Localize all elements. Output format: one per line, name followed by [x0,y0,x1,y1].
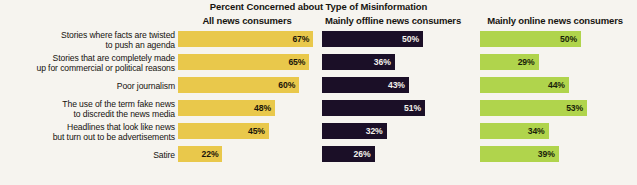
bar-online: 39% [480,146,559,162]
chart-row: Stories that are completely made up for … [0,51,637,74]
bar-track-offline: 50% [322,31,423,47]
category-label-line2: to discredit the news media [3,109,175,119]
bar-track-online: 44% [480,77,569,93]
bar-track-all: 22% [178,146,222,162]
category-label-line1: Stories where facts are twisted [61,29,175,39]
bar-track-offline: 32% [322,123,387,139]
bar-all: 22% [178,146,222,162]
bar-online: 29% [480,54,539,70]
chart-row: Stories where facts are twisted to push … [0,28,637,51]
bar-track-all: 48% [178,100,275,116]
category-label: Headlines that look like news but turn o… [3,121,175,141]
bar-offline: 32% [322,123,387,139]
bar-track-all: 65% [178,54,309,70]
bar-offline: 43% [322,77,409,93]
chart-row: Poor journalism 60% 43% 44% [0,74,637,97]
bar-track-online: 34% [480,123,549,139]
bar-online: 34% [480,123,549,139]
bar-track-offline: 43% [322,77,409,93]
column-header-mainly-online-news-consumers: Mainly online news consumers [474,15,636,26]
category-label-line2: but turn out to be advertisements [3,132,175,142]
category-label: The use of the term fake news to discred… [3,98,175,118]
bar-offline: 51% [322,100,425,116]
chart-title: Percent Concerned about Type of Misinfor… [0,1,637,12]
bar-track-offline: 26% [322,146,375,162]
column-header-mainly-offline-news-consumers: Mainly offline news consumers [318,15,468,26]
category-label-line1: Poor journalism [117,80,175,90]
chart-row: Satire 22% 26% 39% [0,143,637,166]
category-label-line1: Stories that are completely made [53,52,175,62]
category-label-line1: Satire [153,149,175,159]
category-label-line2: up for commercial or political reasons [3,63,175,73]
chart-row: The use of the term fake news to discred… [0,97,637,120]
category-label: Satire [3,149,175,159]
bar-track-online: 50% [480,31,581,47]
bar-track-online: 29% [480,54,539,70]
bar-offline: 50% [322,31,423,47]
column-header-all-news-consumers: All news consumers [178,15,316,26]
category-label: Stories that are completely made up for … [3,52,175,72]
bar-online: 44% [480,77,569,93]
category-label-line2: to push an agenda [3,40,175,50]
misinformation-bar-chart: Percent Concerned about Type of Misinfor… [0,0,637,185]
bar-track-offline: 51% [322,100,425,116]
bar-track-offline: 36% [322,54,395,70]
category-label: Stories where facts are twisted to push … [3,29,175,49]
chart-row: Headlines that look like news but turn o… [0,120,637,143]
category-label: Poor journalism [3,80,175,90]
bar-online: 53% [480,100,587,116]
category-label-line1: The use of the term fake news [62,98,175,108]
category-label-line1: Headlines that look like news [67,121,175,131]
chart-rows: Stories where facts are twisted to push … [0,28,637,166]
bar-all: 65% [178,54,309,70]
bar-offline: 36% [322,54,395,70]
bar-online: 50% [480,31,581,47]
bar-all: 60% [178,77,299,93]
bar-track-online: 53% [480,100,587,116]
bar-track-online: 39% [480,146,559,162]
bar-offline: 26% [322,146,375,162]
bar-track-all: 45% [178,123,269,139]
bar-all: 45% [178,123,269,139]
bar-all: 48% [178,100,275,116]
bar-track-all: 60% [178,77,299,93]
bar-track-all: 67% [178,31,313,47]
bar-all: 67% [178,31,313,47]
